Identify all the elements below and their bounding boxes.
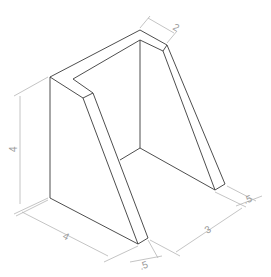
dim-height: 4 bbox=[8, 146, 19, 152]
dim-front-thickness: .5 bbox=[138, 259, 150, 272]
dim-right-thickness: .5 bbox=[242, 193, 254, 206]
dim-inner-width: 3 bbox=[203, 223, 214, 236]
isometric-drawing: 2 4 4 .5 3 .5 bbox=[0, 0, 271, 277]
dimension-lines bbox=[14, 16, 262, 262]
object-outline bbox=[50, 30, 225, 244]
